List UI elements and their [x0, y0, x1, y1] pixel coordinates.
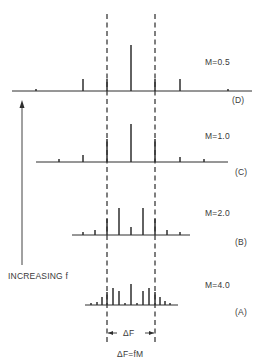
spectrum-d — [12, 45, 252, 91]
spectra — [12, 45, 252, 305]
m-label-d: M=0.5 — [205, 57, 230, 67]
delta-f-label: ΔF — [122, 328, 135, 338]
spectrum-a — [85, 284, 178, 305]
spectrum-label-b: (B) — [235, 237, 247, 247]
spectrum-b — [72, 208, 190, 235]
spectrum-label-d: (D) — [232, 95, 244, 105]
arrow-left-icon — [108, 331, 113, 335]
arrow-up-icon — [20, 100, 25, 108]
spectrum-c — [36, 124, 228, 162]
m-label-b: M=2.0 — [205, 208, 230, 218]
spectrum-label-c: (C) — [235, 167, 247, 177]
arrow-right-icon — [149, 331, 154, 335]
increasing-frequency-label: INCREASING f — [8, 271, 68, 281]
m-label-a: M=4.0 — [205, 280, 230, 290]
fm-spectrum-diagram — [0, 0, 264, 361]
spectrum-label-a: (A) — [235, 307, 247, 317]
increasing-frequency-arrow — [20, 100, 25, 265]
delta-f-formula: ΔF=fM — [117, 349, 143, 359]
m-label-c: M=1.0 — [205, 131, 230, 141]
